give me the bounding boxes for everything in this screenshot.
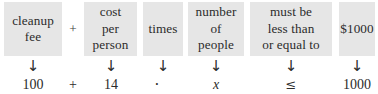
- phrase-line: or equal to: [262, 37, 320, 53]
- down-arrow-icon: ↓: [350, 58, 364, 75]
- down-arrow-icon: ↓: [284, 58, 298, 75]
- phrase-line: of: [210, 21, 221, 37]
- phrase-line: people: [198, 37, 234, 53]
- phrase-line: $1000: [340, 21, 373, 37]
- less-than-or-equal-sign: ≤: [278, 75, 304, 94]
- phrase-line: less than: [268, 21, 315, 37]
- down-arrow-icon: ↓: [26, 58, 40, 75]
- down-arrow-icon: ↓: [104, 58, 118, 75]
- plus-operator-top: +: [62, 2, 84, 56]
- plus-operator: +: [62, 75, 84, 94]
- value-one-thousand: 1000: [337, 75, 377, 94]
- variable-x: x: [204, 75, 228, 94]
- phrase-box-one-thousand-dollars: $1000: [339, 2, 375, 56]
- phrase-line: per: [102, 21, 119, 37]
- multiplication-dot: ·: [150, 75, 164, 94]
- translation-diagram: cleanup fee + cost per person times numb…: [0, 0, 378, 94]
- operator-glyph: +: [69, 21, 77, 37]
- phrase-box-number-of-people: number of people: [188, 2, 244, 56]
- phrase-line: cleanup: [12, 13, 54, 29]
- phrase-line: must be: [270, 4, 312, 20]
- down-arrow-icon: ↓: [156, 58, 170, 75]
- phrase-box-must-be-less-than-or-equal-to: must be less than or equal to: [250, 2, 332, 56]
- phrase-box-cost-per-person: cost per person: [84, 2, 137, 56]
- down-arrow-icon: ↓: [209, 58, 223, 75]
- phrase-line: person: [93, 37, 129, 53]
- value-cleanup-fee: 100: [13, 75, 53, 94]
- phrase-line: number: [196, 4, 237, 20]
- phrase-line: times: [148, 21, 177, 37]
- value-cost-per-person: 14: [94, 75, 128, 94]
- phrase-line: fee: [25, 29, 41, 45]
- phrase-box-cleanup-fee: cleanup fee: [4, 2, 62, 56]
- phrase-line: cost: [100, 4, 122, 20]
- phrase-box-times: times: [143, 2, 183, 56]
